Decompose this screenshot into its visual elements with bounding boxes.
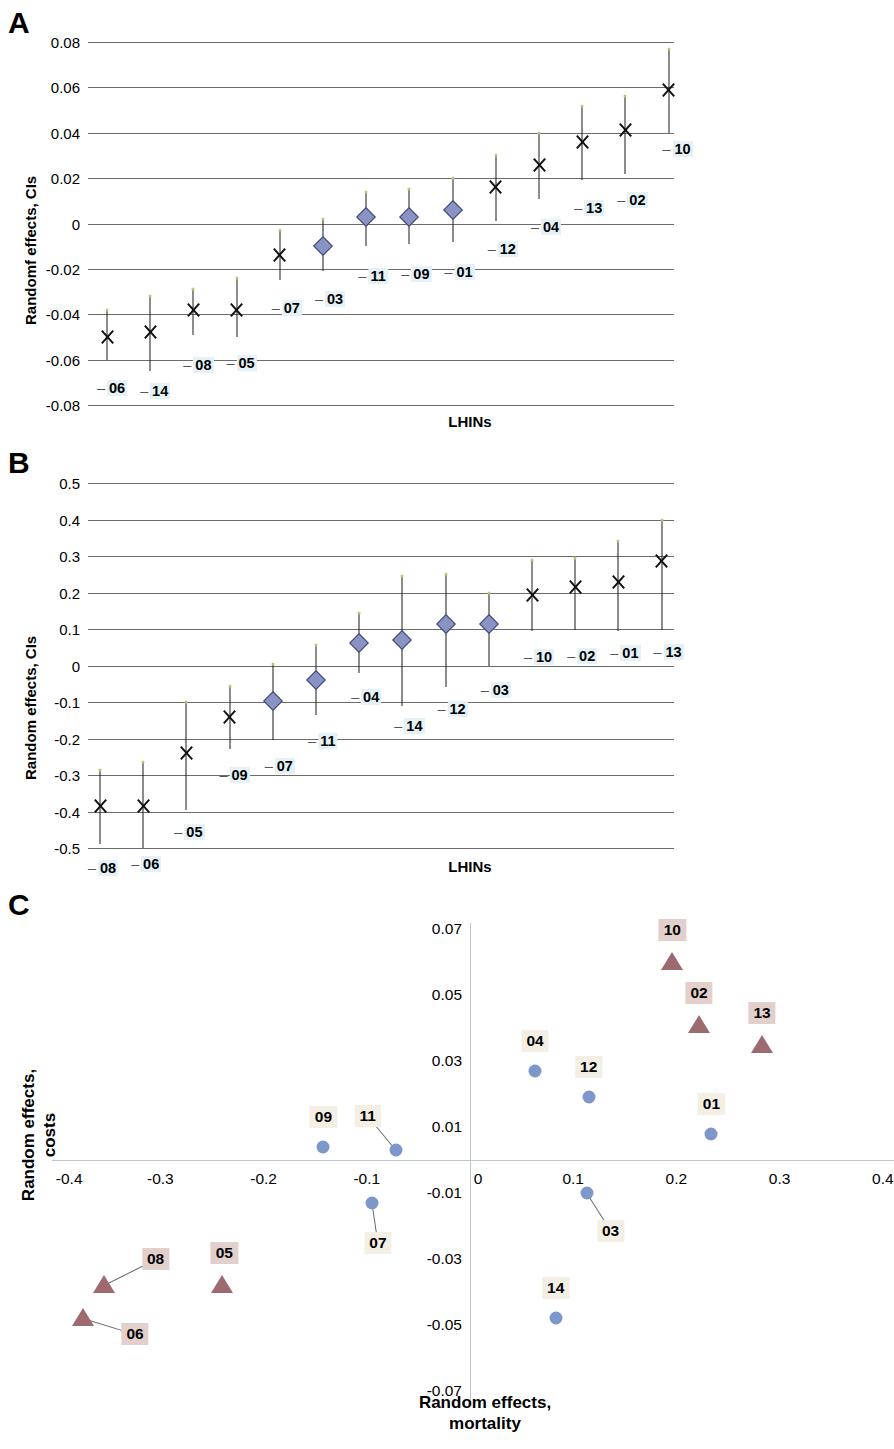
diamond-marker — [349, 633, 369, 653]
gridline — [88, 314, 674, 315]
data-point-label: 06 — [121, 1323, 148, 1345]
y-axis-tick-label: 0 — [72, 215, 80, 232]
data-point-label: 12 — [575, 1056, 602, 1078]
category-label: 06 — [141, 856, 161, 872]
label-leader-dash: – — [663, 141, 671, 157]
confidence-interval-cap — [487, 591, 490, 594]
y-axis-tick-label: 0.06 — [51, 79, 80, 96]
confidence-interval-cap — [315, 644, 318, 647]
x-axis-tick-label: 0.3 — [769, 1170, 791, 1188]
category-label: 02 — [577, 648, 597, 664]
y-axis-tick-label: 0 — [72, 657, 80, 674]
data-point-label: 01 — [698, 1093, 725, 1115]
diamond-marker — [392, 630, 412, 650]
gridline — [88, 87, 674, 88]
triangle-data-point — [93, 1275, 115, 1293]
category-label: 02 — [627, 192, 647, 208]
label-leader-dash: – — [140, 383, 148, 399]
x-axis-tick-label: -0.2 — [250, 1170, 277, 1188]
label-leader-dash: – — [394, 718, 402, 734]
y-axis-tick-label: 0.1 — [59, 621, 80, 638]
data-point-label: 05 — [211, 1242, 238, 1264]
x-marker — [617, 122, 634, 139]
triangle-data-point — [72, 1308, 94, 1326]
gridline — [88, 42, 674, 43]
label-leader-dash: – — [617, 192, 625, 208]
x-marker — [92, 798, 109, 815]
x-axis-tick-label: 0 — [474, 1170, 483, 1188]
x-marker — [221, 708, 238, 725]
y-axis-tick-label: -0.5 — [54, 840, 80, 857]
x-marker — [228, 301, 245, 318]
category-label: 05 — [237, 355, 257, 371]
circle-data-point — [365, 1196, 378, 1209]
data-point-label: 13 — [748, 1002, 775, 1024]
x-marker — [653, 553, 670, 570]
y-axis-tick-label: 0.02 — [51, 170, 80, 187]
y-axis-tick-label: -0.05 — [427, 1316, 462, 1334]
gridline — [88, 520, 674, 521]
y-axis-tick-label: 0.05 — [432, 986, 462, 1004]
panel-b-plot-area: 08–06–05–09–07–11–04–14–12–03–10–02–01–1… — [88, 483, 674, 848]
label-leader-dash: – — [97, 380, 105, 396]
label-leader-dash: – — [174, 824, 182, 840]
confidence-interval-cap — [142, 761, 145, 764]
x-axis-tick-label: -0.1 — [353, 1170, 380, 1188]
category-label: 12 — [448, 701, 468, 717]
gridline — [88, 666, 674, 667]
x-marker — [99, 328, 116, 345]
confidence-interval-cap — [660, 518, 663, 521]
category-label: 01 — [455, 264, 475, 280]
confidence-interval-cap — [106, 308, 109, 311]
confidence-interval-cap — [581, 104, 584, 107]
category-label: 09 — [411, 266, 431, 282]
triangle-data-point — [688, 1015, 710, 1033]
confidence-interval-cap — [408, 188, 411, 191]
label-leader-dash: – — [574, 200, 582, 216]
confidence-interval-cap — [531, 559, 534, 562]
panel-a-x-axis-title: LHINs — [448, 413, 491, 430]
confidence-interval-cap — [235, 276, 238, 279]
confidence-interval-cap — [401, 575, 404, 578]
confidence-interval-cap — [624, 95, 627, 98]
category-label: 04 — [541, 219, 561, 235]
label-leader-dash: – — [88, 860, 96, 876]
y-axis-tick-label: 0.04 — [51, 124, 80, 141]
x-marker — [135, 798, 152, 815]
category-label: 13 — [664, 644, 684, 660]
y-axis-tick-label: 0.07 — [432, 920, 462, 938]
category-label: 03 — [325, 291, 345, 307]
confidence-interval-cap — [149, 295, 152, 298]
y-axis-tick-label: -0.06 — [46, 351, 80, 368]
triangle-data-point — [211, 1275, 233, 1293]
panel-b-forest-plot: Random effects, CIs 08–06–05–09–07–11–04… — [0, 440, 894, 880]
x-marker — [487, 179, 504, 196]
label-leader-dash: – — [308, 733, 316, 749]
diamond-marker — [263, 691, 283, 711]
panel-a: A Randomf effects, CIs 06–14–08–05–07–03… — [0, 0, 894, 440]
circle-data-point — [317, 1140, 330, 1153]
circle-data-point — [580, 1187, 593, 1200]
confidence-interval-cap — [444, 573, 447, 576]
confidence-interval-cap — [365, 190, 368, 193]
category-label: 07 — [275, 758, 295, 774]
category-label: 11 — [369, 268, 388, 284]
category-label: 11 — [318, 733, 337, 749]
circle-data-point — [529, 1064, 542, 1077]
label-leader-dash: – — [315, 291, 323, 307]
circle-data-point — [389, 1144, 402, 1157]
panel-b: B Random effects, CIs 08–06–05–09–07–11–… — [0, 440, 894, 880]
label-leader-dash: – — [358, 268, 366, 284]
panel-b-x-axis-title: LHINs — [448, 858, 491, 875]
label-leader-dash: – — [488, 241, 496, 257]
panel-b-y-axis-title: Random effects, CIs — [22, 636, 39, 780]
triangle-data-point — [751, 1035, 773, 1053]
data-point-label: 03 — [597, 1220, 624, 1242]
label-leader-dash: – — [610, 645, 618, 661]
category-label: 05 — [184, 824, 204, 840]
circle-data-point — [582, 1091, 595, 1104]
y-axis-tick-label: -0.1 — [54, 694, 80, 711]
gridline — [88, 405, 674, 406]
label-leader-dash: – — [265, 758, 273, 774]
gridline — [88, 812, 674, 813]
